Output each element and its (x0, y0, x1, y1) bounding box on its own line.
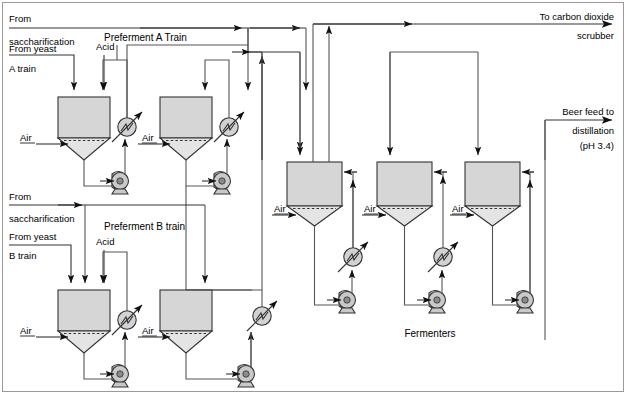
preferment-b-2-cone (160, 331, 212, 353)
fermenter-1 (287, 162, 342, 226)
pump-b1-base (112, 382, 128, 387)
pump-fermenter-3 (505, 291, 534, 314)
a-train-transfer (186, 186, 252, 290)
preferment-a-2-body (160, 97, 212, 138)
label-from-yeast-b: From yeast B train (9, 231, 57, 261)
preferment-b-2-body (160, 290, 212, 331)
preferment-a-1-body (58, 97, 110, 138)
pump-f3-base (517, 308, 533, 313)
to-co2-line1: To carbon dioxide (540, 11, 614, 22)
pump-preferment-b-1 (100, 365, 129, 388)
pump-a1-impeller (117, 178, 123, 184)
beer-feed-line2: distillation (572, 125, 614, 136)
preferment-b-2 (160, 290, 212, 353)
preferment-a-1-cone (58, 138, 110, 160)
pump-preferment-b-2 (226, 365, 255, 388)
pump-a2-base (214, 189, 230, 194)
pump-b2-impeller (243, 371, 249, 377)
process-flow-diagram-page: From saccharification From yeast A train… (0, 0, 626, 394)
label-from-saccharification-a: From saccharification (9, 13, 74, 47)
label-from-yeast-a: From yeast A train (9, 43, 57, 74)
fermenter-3-body (465, 162, 520, 206)
air-preferment-b1-label: Air (20, 325, 32, 336)
preferment-a-2 (160, 97, 212, 160)
fermenter-3 (465, 162, 520, 226)
pump-preferment-a-1 (100, 172, 129, 195)
air-fermenter-1-label: Air (274, 203, 286, 214)
flowsheet-canvas: From saccharification From yeast A train… (0, 0, 626, 394)
from-saccharification-b-line2: saccharification (9, 213, 74, 224)
preferment-b-1-cone (58, 331, 110, 353)
to-co2-line2: scrubber (577, 30, 614, 41)
from-yeast-a-line2: A train (9, 63, 36, 74)
preferment-a-title: Preferment A Train (104, 32, 187, 43)
from-saccharification-a-line1: From (9, 13, 31, 24)
fermenter-2 (377, 162, 432, 226)
preferment-b-2-bottom-out (186, 353, 237, 379)
preferment-a-1 (58, 97, 110, 160)
fermenter-2-body (377, 162, 432, 206)
preferment-b-1-body (58, 290, 110, 331)
fermenter-1-body (287, 162, 342, 206)
fermenter-3-bottom-out (493, 226, 517, 305)
pump-f3-impeller (522, 297, 528, 303)
preferment-a-2-bottom-out (186, 160, 215, 186)
fermenters-caption: Fermenters (404, 328, 455, 339)
acid-b-label: Acid (96, 236, 114, 247)
preferment-b-title: Preferment B train (104, 221, 185, 232)
beer-feed-line3: (pH 3.4) (580, 140, 614, 151)
pump-f2-impeller (434, 297, 440, 303)
fermenter-2-bottom-out (405, 226, 429, 305)
fermenter-1-return-elbow (353, 172, 357, 176)
pump-b1-impeller (117, 371, 123, 377)
pump-fermenter-2 (417, 291, 446, 314)
label-from-saccharification-b: From saccharification (9, 191, 74, 224)
preferment-a-1-bottom-out (84, 160, 113, 186)
pump-f1-base (339, 308, 355, 313)
pump-a1-base (112, 189, 128, 194)
pump-f1-impeller (344, 297, 350, 303)
preferment-b-1 (58, 290, 110, 353)
fermenter-1-bottom-out (315, 226, 339, 305)
pump-a2-impeller (219, 178, 225, 184)
air-fermenter-2-label: Air (364, 203, 376, 214)
pump-f2-base (429, 308, 445, 313)
preferment-a-2-cone (160, 138, 212, 160)
beer-feed-line1: Beer feed to (562, 106, 614, 117)
fermenter-3-return-elbow (530, 172, 534, 176)
a-header-branch (248, 28, 262, 52)
air-preferment-a2-label: Air (142, 132, 154, 143)
from-yeast-b-line1: From yeast (9, 231, 57, 242)
from-saccharification-b-line1: From (9, 191, 31, 202)
air-preferment-a1-label: Air (20, 132, 32, 143)
pump-preferment-a-2 (202, 172, 231, 195)
preferment-b-1-bottom-out (84, 353, 113, 379)
air-fermenter-3-label: Air (452, 203, 464, 214)
from-yeast-a-line1: From yeast (9, 43, 57, 54)
pump-b2-base (238, 382, 254, 387)
pump-fermenter-1 (327, 291, 356, 314)
from-yeast-b-line2: B train (9, 250, 36, 261)
fermenter-2-return-elbow (443, 172, 447, 176)
air-preferment-b2-label: Air (142, 325, 154, 336)
